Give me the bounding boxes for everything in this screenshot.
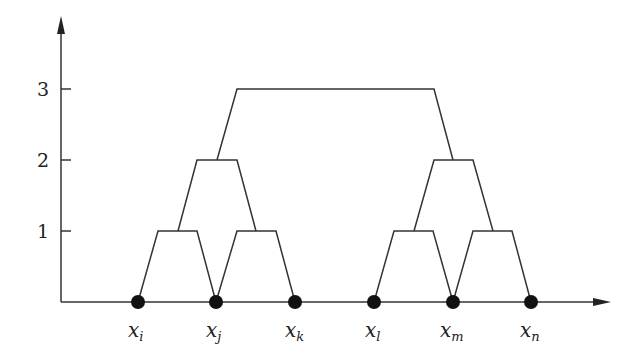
y-axis-arrow-icon — [57, 16, 65, 34]
dendrogram-links — [138, 89, 531, 302]
point-xl — [367, 295, 381, 309]
label-xm: xm — [440, 318, 464, 344]
x-axis-arrow-icon — [593, 298, 611, 306]
label-xn: xn — [520, 318, 540, 344]
tick-label-2: 2 — [37, 149, 49, 171]
merge-mn — [453, 231, 531, 302]
tick-label-1: 1 — [37, 220, 49, 242]
label-xi: xi — [128, 318, 143, 344]
merge-jk — [216, 231, 295, 302]
merge-root-3 — [217, 89, 453, 160]
point-xj — [209, 295, 223, 309]
point-xn — [524, 295, 538, 309]
point-xi — [131, 295, 145, 309]
merge-left-2 — [178, 160, 256, 231]
label-xk: xk — [285, 318, 304, 344]
merge-right-2 — [414, 160, 493, 231]
dendrogram-diagram: 3 2 1 xi xj xk xl xm xn — [0, 0, 641, 358]
label-xj: xj — [206, 318, 221, 344]
point-labels: xi xj xk xl xm xn — [128, 318, 540, 344]
point-xm — [446, 295, 460, 309]
merge-ij — [138, 231, 216, 302]
merge-lm — [374, 231, 453, 302]
label-xl: xl — [365, 318, 380, 344]
point-xk — [288, 295, 302, 309]
tick-label-3: 3 — [37, 78, 49, 100]
